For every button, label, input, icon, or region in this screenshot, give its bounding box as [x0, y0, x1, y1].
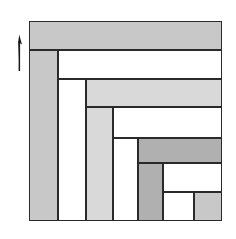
piece-square-white-small	[163, 192, 194, 221]
piece-band-mid-white	[113, 107, 222, 138]
piece-column-white-2	[113, 138, 138, 221]
piece-column-light-gray	[86, 107, 113, 221]
figure-root	[0, 0, 236, 239]
piece-band-dark-gray	[138, 138, 222, 163]
piece-column-dark-gray	[138, 163, 163, 221]
piece-band-upper-white	[58, 50, 222, 79]
piece-band-top	[29, 21, 222, 50]
piece-band-lower-white	[163, 163, 222, 192]
piece-band-left	[29, 50, 58, 221]
piece-column-white-1	[58, 79, 86, 221]
dissection-rectangle	[29, 21, 222, 221]
piece-band-light-gray	[86, 79, 222, 107]
up-arrow-icon	[14, 33, 28, 71]
piece-square-gray-corner	[194, 192, 222, 221]
